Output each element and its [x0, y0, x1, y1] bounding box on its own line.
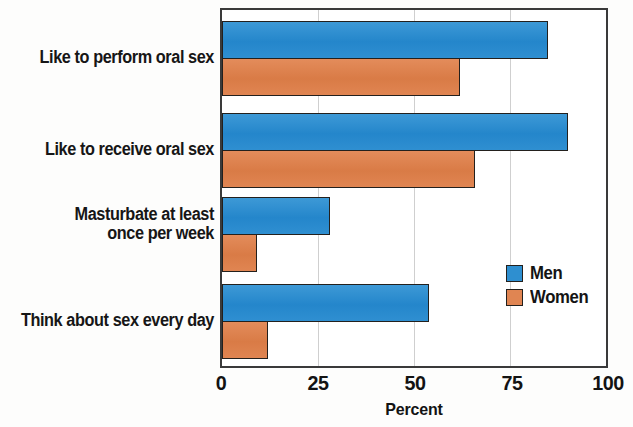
legend-swatch-women-icon [506, 289, 523, 306]
x-tick-50: 50 [405, 372, 426, 393]
category-label-1: Like to receive oral sex [15, 140, 214, 159]
x-axis-title: Percent [232, 400, 597, 420]
x-tick-100: 100 [592, 372, 623, 393]
plot-area [220, 8, 608, 368]
category-label-0: Like to perform oral sex [15, 48, 214, 67]
bar-men-2 [222, 197, 330, 235]
bar-men-0 [222, 21, 548, 59]
legend-entry-men: Men [506, 262, 602, 285]
bar-women-0 [222, 58, 460, 96]
category-label-3: Think about sex every day [15, 311, 214, 330]
x-tick-25: 25 [308, 372, 329, 393]
category-axis-labels: Like to perform oral sex Like to receive… [0, 0, 214, 380]
gridline-75 [510, 10, 511, 366]
bar-men-1 [222, 113, 568, 151]
bar-women-2 [222, 234, 257, 272]
chart-screenshot: Like to perform oral sex Like to receive… [0, 0, 633, 427]
legend-entry-women: Women [506, 286, 602, 309]
legend-swatch-men-icon [506, 265, 523, 282]
x-tick-75: 75 [502, 372, 523, 393]
legend-label-men: Men [530, 263, 562, 284]
bar-men-3 [222, 284, 429, 322]
x-axis-ticks: 0 25 50 75 100 [0, 372, 633, 398]
category-label-2: Masturbate at least once per week [15, 205, 214, 243]
legend: Men Women [506, 262, 602, 310]
bar-women-1 [222, 150, 475, 188]
bar-women-3 [222, 321, 268, 359]
legend-label-women: Women [530, 287, 588, 308]
x-tick-0: 0 [216, 372, 226, 393]
